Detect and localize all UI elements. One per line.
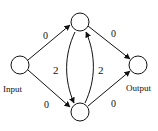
edge-top-output	[88, 26, 130, 59]
node-input	[11, 56, 29, 74]
node-output	[129, 56, 147, 74]
edge-input-top	[28, 25, 70, 60]
node-label-input: Input	[3, 84, 22, 94]
node-label-output: Output	[126, 83, 152, 93]
network-diagram: Input Output 0 0 0 0 2 2	[0, 0, 158, 131]
edge-weight-input-bottom: 0	[44, 99, 49, 110]
node-bottom	[71, 103, 89, 121]
edge-input-bottom	[28, 70, 70, 107]
edge-weight-top-output: 0	[111, 28, 116, 39]
node-top	[71, 13, 89, 31]
edge-weight-bottom-output: 0	[111, 98, 116, 109]
edge-bottom-top	[85, 32, 93, 103]
edge-bottom-output	[88, 71, 130, 106]
edge-weight-bottom-top: 2	[98, 64, 104, 76]
edge-top-bottom	[67, 32, 75, 103]
edge-weight-top-bottom: 2	[53, 64, 59, 76]
edge-weight-input-top: 0	[43, 30, 48, 41]
